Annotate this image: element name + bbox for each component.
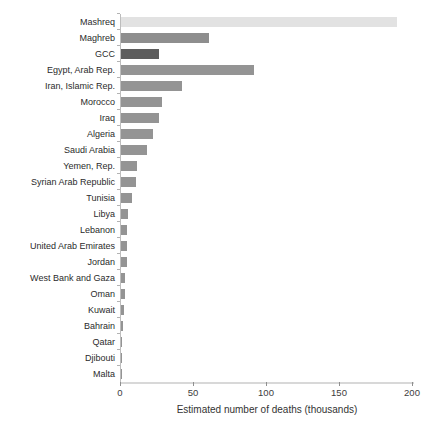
- bar-row: United Arab Emirates: [0, 238, 413, 254]
- bar-track: [120, 206, 413, 222]
- bar: [121, 177, 136, 187]
- bar-track: [120, 46, 413, 62]
- bar: [121, 321, 123, 331]
- bar: [121, 337, 122, 347]
- x-axis-tick: [193, 382, 194, 386]
- category-label: Bahrain: [0, 318, 120, 334]
- bar-row: Malta: [0, 366, 413, 382]
- bar-track: [120, 238, 413, 254]
- category-label: GCC: [0, 46, 120, 62]
- category-label: Egypt, Arab Rep.: [0, 62, 120, 78]
- category-label: Libya: [0, 206, 120, 222]
- category-label: Yemen, Rep.: [0, 158, 120, 174]
- bar: [121, 209, 128, 219]
- x-axis-tick-label: 0: [117, 387, 122, 398]
- bar: [121, 257, 127, 267]
- bar-track: [120, 158, 413, 174]
- bar-row: Morocco: [0, 94, 413, 110]
- bar-track: [120, 94, 413, 110]
- bar-row: Qatar: [0, 334, 413, 350]
- category-label: Jordan: [0, 254, 120, 270]
- bar-row: West Bank and Gaza: [0, 270, 413, 286]
- category-label: Qatar: [0, 334, 120, 350]
- category-label: West Bank and Gaza: [0, 270, 120, 286]
- bar: [121, 17, 397, 27]
- bar: [121, 289, 125, 299]
- category-label: Mashreq: [0, 14, 120, 30]
- bar-row: Saudi Arabia: [0, 142, 413, 158]
- bar: [121, 273, 125, 283]
- bar: [121, 161, 137, 171]
- bar-row: Tunisia: [0, 190, 413, 206]
- category-label: Iran, Islamic Rep.: [0, 78, 120, 94]
- bar: [121, 113, 159, 123]
- bar-row: Kuwait: [0, 302, 413, 318]
- bar: [121, 369, 122, 379]
- bar-row: GCC: [0, 46, 413, 62]
- bar: [121, 353, 122, 363]
- x-axis-tick: [339, 382, 340, 386]
- bar-chart: MashreqMaghrebGCCEgypt, Arab Rep.Iran, I…: [0, 0, 435, 429]
- bar-row: Lebanon: [0, 222, 413, 238]
- bar: [121, 305, 124, 315]
- bar-row: Maghreb: [0, 30, 413, 46]
- category-label: Djibouti: [0, 350, 120, 366]
- category-label: United Arab Emirates: [0, 238, 120, 254]
- bar-track: [120, 78, 413, 94]
- category-label: Kuwait: [0, 302, 120, 318]
- bar-row: Mashreq: [0, 14, 413, 30]
- bar: [121, 193, 132, 203]
- bar-track: [120, 318, 413, 334]
- bar-row: Bahrain: [0, 318, 413, 334]
- bar-track: [120, 334, 413, 350]
- bar-track: [120, 62, 413, 78]
- bar-track: [120, 126, 413, 142]
- category-label: Oman: [0, 286, 120, 302]
- bar-track: [120, 190, 413, 206]
- bar-row: Iran, Islamic Rep.: [0, 78, 413, 94]
- bar: [121, 49, 159, 59]
- category-label: Saudi Arabia: [0, 142, 120, 158]
- bar-track: [120, 302, 413, 318]
- bar: [121, 225, 127, 235]
- category-label: Maghreb: [0, 30, 120, 46]
- x-axis-title: Estimated number of deaths (thousands): [120, 404, 414, 415]
- bar: [121, 81, 182, 91]
- bar: [121, 97, 162, 107]
- x-axis-tick-label: 100: [258, 387, 274, 398]
- bar-row: Syrian Arab Republic: [0, 174, 413, 190]
- category-label: Algeria: [0, 126, 120, 142]
- bar-row: Iraq: [0, 110, 413, 126]
- bar-track: [120, 174, 413, 190]
- category-label: Lebanon: [0, 222, 120, 238]
- chart-rows: MashreqMaghrebGCCEgypt, Arab Rep.Iran, I…: [0, 14, 413, 382]
- bar-row: Jordan: [0, 254, 413, 270]
- bar: [121, 33, 209, 43]
- bar-row: Libya: [0, 206, 413, 222]
- category-label: Tunisia: [0, 190, 120, 206]
- bar-track: [120, 366, 413, 382]
- x-axis-tick: [412, 382, 413, 386]
- bar-track: [120, 254, 413, 270]
- x-axis-tick-label: 200: [404, 387, 420, 398]
- category-label: Syrian Arab Republic: [0, 174, 120, 190]
- bar-row: Algeria: [0, 126, 413, 142]
- x-axis-tick-label: 150: [331, 387, 347, 398]
- bar: [121, 145, 147, 155]
- x-axis-tick-label: 50: [188, 387, 199, 398]
- x-axis-tick: [266, 382, 267, 386]
- category-label: Malta: [0, 366, 120, 382]
- bar-track: [120, 286, 413, 302]
- bar: [121, 129, 153, 139]
- bar-track: [120, 222, 413, 238]
- bar-row: Oman: [0, 286, 413, 302]
- category-label: Iraq: [0, 110, 120, 126]
- bar-track: [120, 142, 413, 158]
- bar-row: Egypt, Arab Rep.: [0, 62, 413, 78]
- bar-track: [120, 270, 413, 286]
- bar-track: [120, 110, 413, 126]
- bar-row: Djibouti: [0, 350, 413, 366]
- category-label: Morocco: [0, 94, 120, 110]
- bar-row: Yemen, Rep.: [0, 158, 413, 174]
- x-axis-line: [120, 382, 414, 384]
